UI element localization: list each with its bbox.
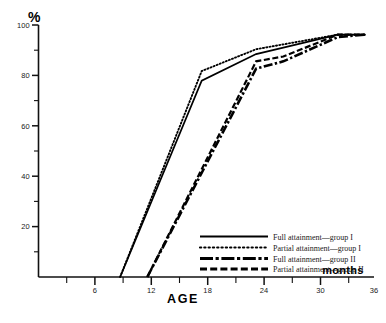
chart-figure: % AGE months 100 80 60 40 20 bbox=[0, 0, 386, 323]
chart-legend: Full attainment—group I Partial attainme… bbox=[200, 233, 364, 274]
x-ticklabel: 12 bbox=[147, 286, 156, 295]
x-ticklabel: 18 bbox=[203, 286, 212, 295]
x-axis-ticklabels: 6 12 18 24 30 36 bbox=[93, 286, 379, 295]
legend-label-full-group-2: Full attainment—group II bbox=[273, 255, 356, 264]
x-axis-ticks bbox=[67, 277, 349, 285]
y-ticklabel: 100 bbox=[17, 21, 30, 30]
y-ticklabel: 20 bbox=[21, 222, 30, 231]
x-ticklabel: 24 bbox=[260, 286, 269, 295]
y-ticklabel: 60 bbox=[21, 122, 30, 131]
x-ticklabel: 30 bbox=[316, 286, 325, 295]
legend-label-partial-group-1: Partial attainment—group I bbox=[273, 244, 361, 253]
y-ticklabel: 40 bbox=[21, 172, 30, 181]
x-axis-title: AGE bbox=[167, 292, 199, 306]
y-ticklabel: 80 bbox=[21, 71, 30, 80]
legend-label-full-group-1: Full attainment—group I bbox=[273, 233, 353, 242]
x-ticklabel: 36 bbox=[370, 286, 379, 295]
line-chart-svg: % AGE months 100 80 60 40 20 bbox=[0, 0, 386, 323]
x-ticklabel: 6 bbox=[93, 286, 97, 295]
y-axis-ticklabels: 100 80 60 40 20 bbox=[17, 21, 30, 232]
y-axis-ticks bbox=[32, 25, 39, 252]
legend-label-partial-group-2: Partial attainment—group II bbox=[273, 265, 364, 274]
